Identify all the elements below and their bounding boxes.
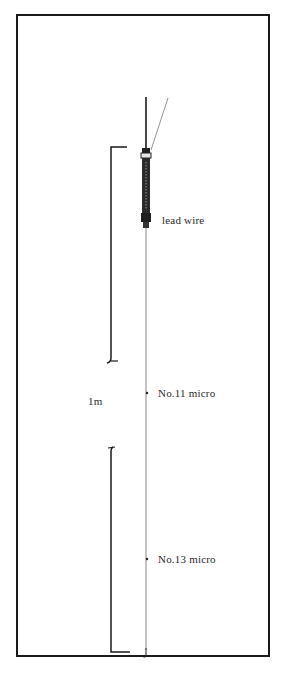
lower-line-marker <box>146 558 148 560</box>
upper-line-marker <box>146 392 148 394</box>
lead-wire-label: lead wire <box>162 214 204 226</box>
lower-line-label: No.13 micro <box>158 553 216 565</box>
rig-illustration <box>0 0 285 684</box>
hook-icon <box>144 648 147 657</box>
length-label: 1m <box>88 395 102 407</box>
main-line <box>151 98 168 150</box>
upper-bracket <box>107 147 127 363</box>
float-icon <box>141 148 151 228</box>
upper-line-label: No.11 micro <box>158 387 215 399</box>
lower-bracket <box>111 447 130 652</box>
